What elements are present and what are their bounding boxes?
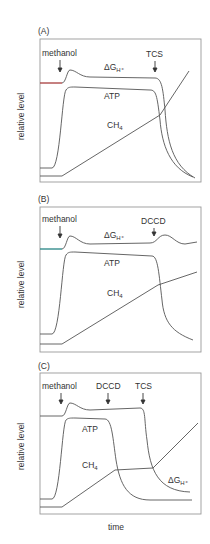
panel-c-atp-curve <box>40 418 192 500</box>
panel-c-annotation-tcs: TCS <box>135 381 152 391</box>
panel-a-curve-label-dg: ΔGH⁺ <box>104 62 124 73</box>
panel-a-ylabel: relative level <box>16 93 26 140</box>
panel-a-tcs-arrow-icon <box>153 61 157 72</box>
panel-a-curve-label-atp: ATP <box>104 91 120 101</box>
panel-b-dccd-arrow-icon <box>152 228 156 236</box>
panel-a-label: (A) <box>38 26 50 36</box>
panel-a-annotation-tcs: TCS <box>146 49 163 59</box>
panel-b-frame <box>40 207 201 352</box>
panel-c-curve-label-dg: ΔGH⁺ <box>168 475 188 486</box>
panel-b-methanol-arrow-icon <box>58 226 62 238</box>
panel-a-annotation-methanol: methanol <box>42 48 77 58</box>
panel-b-ch4-curve <box>40 272 197 344</box>
panel-b-annotation-dccd: DCCD <box>141 216 166 226</box>
panel-b-curve-label-ch4: CH4 <box>107 288 123 299</box>
panel-c-label: (C) <box>38 361 50 371</box>
panel-c-curve-label-atp: ATP <box>82 424 98 434</box>
panel-c-ylabel: relative level <box>16 423 26 470</box>
panel-c-frame <box>40 373 201 514</box>
panel-b-label: (B) <box>38 194 50 204</box>
figure: relative level relative level relative l… <box>0 0 210 544</box>
xlabel: time <box>108 522 124 532</box>
panel-c-dccd-arrow-icon <box>106 393 110 404</box>
panel-c-annotation-methanol: methanol <box>42 381 77 391</box>
panel-b-curve-label-atp: ATP <box>104 258 120 268</box>
panel-c-methanol-arrow-icon <box>59 393 63 404</box>
panel-c-tcs-arrow-icon <box>141 393 145 404</box>
panel-b-curve-label-dg: ΔGH⁺ <box>104 230 124 241</box>
panel-c-curve-label-ch4: CH4 <box>82 460 98 471</box>
panel-b-annotation-methanol: methanol <box>42 214 77 224</box>
panel-b-ylabel: relative level <box>16 261 26 308</box>
panel-a-curve-label-ch4: CH4 <box>107 120 123 131</box>
panel-c-annotation-dccd: DCCD <box>96 381 121 391</box>
panel-a-methanol-arrow-icon <box>58 60 62 72</box>
panel-c-ch4-curve <box>40 423 198 507</box>
